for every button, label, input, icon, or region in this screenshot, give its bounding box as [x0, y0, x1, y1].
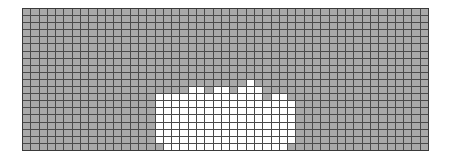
grid-cell-filled	[371, 137, 378, 143]
grid-cell-filled	[330, 44, 337, 50]
grid-cell-filled	[131, 108, 138, 114]
grid-cell-filled	[230, 30, 237, 36]
grid-cell-filled	[106, 9, 113, 15]
grid-cell-filled	[48, 108, 55, 114]
grid-cell-filled	[222, 30, 229, 36]
grid-cell-empty	[288, 123, 295, 129]
grid-cell-filled	[214, 59, 221, 65]
grid-cell-filled	[321, 23, 328, 29]
grid-cell-filled	[64, 144, 71, 150]
grid-cell-filled	[371, 23, 378, 29]
grid-cell-filled	[338, 23, 345, 29]
grid-cell-empty	[238, 101, 245, 107]
grid-cell-filled	[106, 73, 113, 79]
grid-cell-filled	[81, 44, 88, 50]
grid-cell-filled	[280, 80, 287, 86]
grid-cell-filled	[371, 9, 378, 15]
grid-cell-filled	[321, 101, 328, 107]
grid-cell-empty	[288, 130, 295, 136]
grid-cell-filled	[238, 44, 245, 50]
grid-cell-filled	[247, 16, 254, 22]
grid-cell-filled	[296, 37, 303, 43]
grid-cell-filled	[346, 30, 353, 36]
grid-cell-filled	[421, 144, 428, 150]
grid-cell-filled	[139, 59, 146, 65]
grid-cell-filled	[172, 44, 179, 50]
grid-cell-filled	[23, 59, 30, 65]
grid-cell-filled	[330, 52, 337, 58]
grid-cell-filled	[296, 73, 303, 79]
grid-cell-filled	[247, 9, 254, 15]
grid-cell-filled	[396, 137, 403, 143]
grid-cell-empty	[180, 144, 187, 150]
grid-cell-filled	[98, 59, 105, 65]
grid-cell-filled	[272, 16, 279, 22]
grid-cell-filled	[321, 30, 328, 36]
grid-cell-filled	[180, 37, 187, 43]
grid-cell-filled	[363, 137, 370, 143]
grid-cell-filled	[379, 66, 386, 72]
grid-cell-filled	[330, 59, 337, 65]
grid-cell-filled	[272, 52, 279, 58]
grid-cell-filled	[147, 123, 154, 129]
grid-cell-filled	[396, 73, 403, 79]
grid-cell-filled	[247, 59, 254, 65]
grid-cell-filled	[64, 30, 71, 36]
grid-cell-empty	[255, 130, 262, 136]
grid-cell-filled	[164, 52, 171, 58]
grid-cell-empty	[156, 94, 163, 100]
grid-cell-filled	[106, 37, 113, 43]
grid-cell-filled	[114, 52, 121, 58]
grid-cell-filled	[23, 144, 30, 150]
grid-cell-filled	[31, 44, 38, 50]
grid-cell-filled	[172, 52, 179, 58]
grid-cell-filled	[379, 144, 386, 150]
grid-cell-empty	[272, 144, 279, 150]
grid-cell-filled	[31, 23, 38, 29]
grid-cell-filled	[330, 30, 337, 36]
grid-cell-filled	[288, 52, 295, 58]
grid-cell-filled	[305, 87, 312, 93]
grid-cell-filled	[147, 52, 154, 58]
grid-cell-empty	[238, 94, 245, 100]
grid-cell-filled	[379, 23, 386, 29]
grid-cell-filled	[354, 66, 361, 72]
grid-cell-filled	[197, 37, 204, 43]
grid-cell-filled	[139, 44, 146, 50]
grid-cell-empty	[172, 108, 179, 114]
grid-cell-filled	[98, 108, 105, 114]
grid-cell-filled	[338, 73, 345, 79]
grid-cell-filled	[263, 87, 270, 93]
grid-cell-filled	[371, 80, 378, 86]
grid-cell-filled	[98, 9, 105, 15]
grid-cell-filled	[89, 37, 96, 43]
grid-cell-filled	[139, 16, 146, 22]
grid-cell-filled	[230, 52, 237, 58]
grid-cell-filled	[222, 73, 229, 79]
grid-cell-filled	[114, 115, 121, 121]
grid-cell-filled	[164, 59, 171, 65]
grid-cell-filled	[354, 123, 361, 129]
grid-cell-filled	[189, 23, 196, 29]
grid-cell-filled	[56, 108, 63, 114]
grid-cell-filled	[288, 9, 295, 15]
grid-cell-empty	[263, 101, 270, 107]
grid-cell-filled	[263, 52, 270, 58]
grid-cell-filled	[346, 101, 353, 107]
grid-cell-empty	[172, 94, 179, 100]
grid-cell-filled	[122, 23, 129, 29]
grid-cell-filled	[114, 66, 121, 72]
grid-cell-filled	[131, 52, 138, 58]
grid-cell-filled	[205, 80, 212, 86]
grid-cell-empty	[180, 137, 187, 143]
grid-cell-filled	[379, 16, 386, 22]
grid-cell-filled	[330, 101, 337, 107]
grid-cell-filled	[396, 101, 403, 107]
grid-cell-filled	[56, 44, 63, 50]
grid-cell-filled	[363, 94, 370, 100]
grid-cell-filled	[89, 59, 96, 65]
grid-cell-filled	[421, 87, 428, 93]
grid-cell-filled	[230, 37, 237, 43]
grid-cell-filled	[305, 30, 312, 36]
grid-cell-filled	[404, 59, 411, 65]
